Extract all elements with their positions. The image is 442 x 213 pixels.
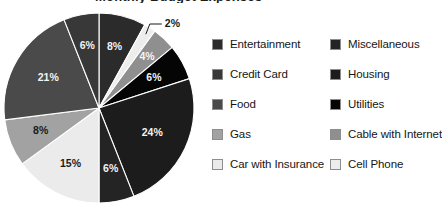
pie-slice-label: 6% xyxy=(80,39,96,51)
legend-item[interactable]: Gas xyxy=(212,119,330,149)
legend-item-label: Cable with Internet xyxy=(348,128,442,140)
legend-item-label: Gas xyxy=(230,128,251,140)
pie-slice-group xyxy=(4,13,194,203)
pie-slice-label: 8% xyxy=(107,40,123,52)
chart-title-fragment: Monthly Budget Expenses xyxy=(95,0,325,3)
legend-swatch-icon xyxy=(330,39,341,50)
pie-svg: 8%4%6%24%6%15%8%21%6% 2% xyxy=(0,8,200,208)
legend-item[interactable]: Cell Phone xyxy=(330,149,440,179)
pie-slice-label: 4% xyxy=(140,50,156,62)
pie-slice-label: 8% xyxy=(33,124,49,136)
legend-item-label: Housing xyxy=(348,68,390,80)
legend-item-label: Cell Phone xyxy=(348,158,403,170)
legend-swatch-icon xyxy=(212,69,223,80)
legend-item-label: Miscellaneous xyxy=(348,38,420,50)
legend-item-label: Credit Card xyxy=(230,68,288,80)
pie-slice-label: 6% xyxy=(103,162,119,174)
pie-slice-callout-label: 2% xyxy=(165,17,181,29)
pie-slice-label: 21% xyxy=(38,71,60,83)
legend-item[interactable]: Food xyxy=(212,89,330,119)
legend-swatch-icon xyxy=(212,129,223,140)
legend-item[interactable]: Utilities xyxy=(330,89,440,119)
legend-swatch-icon xyxy=(212,39,223,50)
legend-swatch-icon xyxy=(330,159,341,170)
pie-slice-label: 15% xyxy=(60,157,82,169)
legend-item[interactable]: Credit Card xyxy=(212,59,330,89)
legend-swatch-icon xyxy=(212,159,223,170)
legend-swatch-icon xyxy=(330,129,341,140)
pie-chart-plot: 8%4%6%24%6%15%8%21%6% 2% xyxy=(0,8,200,208)
legend-item-label: Entertainment xyxy=(230,38,300,50)
legend: EntertainmentMiscellaneousCredit CardHou… xyxy=(212,29,440,189)
legend-swatch-icon xyxy=(330,69,341,80)
legend-item-label: Food xyxy=(230,98,256,110)
pie-slice-label: 6% xyxy=(146,71,162,83)
legend-item[interactable]: Cable with Internet xyxy=(330,119,440,149)
pie-chart-figure: Monthly Budget Expenses 8%4%6%24%6%15%8%… xyxy=(0,0,442,213)
legend-item[interactable]: Entertainment xyxy=(212,29,330,59)
pie-slice-label: 24% xyxy=(142,126,164,138)
legend-swatch-icon xyxy=(330,99,341,110)
legend-item[interactable]: Housing xyxy=(330,59,440,89)
legend-item[interactable]: Miscellaneous xyxy=(330,29,440,59)
legend-item-label: Car with Insurance xyxy=(230,158,324,170)
legend-item[interactable]: Car with Insurance xyxy=(212,149,330,179)
legend-swatch-icon xyxy=(212,99,223,110)
legend-item-label: Utilities xyxy=(348,98,384,110)
